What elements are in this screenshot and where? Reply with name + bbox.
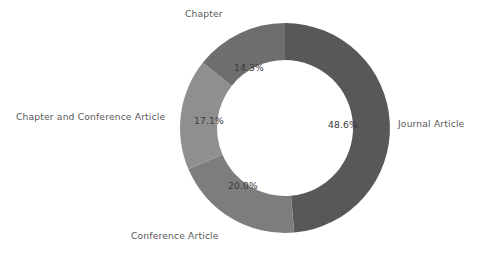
- slice-percent-chapter-and-conference-article: 17.1%: [194, 115, 224, 126]
- slice-percent-journal-article: 48.6%: [328, 119, 358, 130]
- donut-slices: [180, 23, 390, 233]
- slice-label-conference-article: Conference Article: [131, 230, 219, 241]
- slice-label-chapter: Chapter: [185, 8, 223, 19]
- slice-percent-chapter: 14.3%: [234, 62, 264, 73]
- donut-chart-figure: Chapter Journal Article Chapter and Conf…: [0, 0, 477, 257]
- slice-label-chapter-and-conference-article: Chapter and Conference Article: [16, 111, 165, 122]
- slice-label-journal-article: Journal Article: [398, 118, 464, 129]
- slice-percent-conference-article: 20.0%: [228, 180, 258, 191]
- slice-conference-article[interactable]: [188, 155, 294, 233]
